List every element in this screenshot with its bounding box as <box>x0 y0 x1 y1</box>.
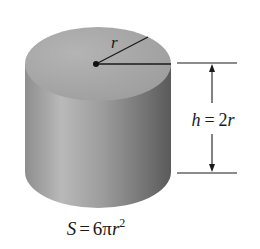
cylinder-diagram: r h=2r S=6πr2 <box>0 0 260 249</box>
arrow-down-icon <box>209 164 215 172</box>
radius-label: r <box>111 33 118 52</box>
surface-area-label: S=6πr2 <box>67 216 126 239</box>
center-point <box>93 61 99 67</box>
height-label: h=2r <box>191 110 235 130</box>
arrow-up-icon <box>209 64 215 72</box>
